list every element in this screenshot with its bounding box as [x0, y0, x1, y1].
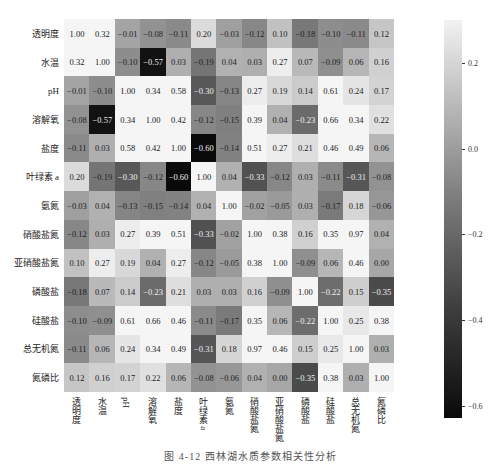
heatmap-cell: −0.23 [140, 277, 166, 306]
heatmap-cell: 0.66 [140, 306, 166, 335]
heatmap-cell: −0.22 [318, 277, 344, 306]
heatmap-cell: −0.17 [318, 191, 344, 220]
heatmap-cell: 0.27 [166, 249, 192, 278]
colorbar-tick: −0.4 [462, 315, 483, 325]
heatmap-cell: 0.04 [191, 191, 217, 220]
heatmap-cell: −0.30 [191, 76, 217, 105]
heatmap-cell: −0.01 [64, 76, 90, 105]
x-axis-label: 总无机氮 [350, 397, 363, 433]
heatmap-cell: 0.03 [242, 48, 268, 77]
heatmap-cell: 0.46 [267, 335, 293, 364]
heatmap-cell: −0.18 [64, 277, 90, 306]
heatmap-cell: −0.11 [166, 19, 192, 48]
heatmap-cell: 0.19 [267, 76, 293, 105]
heatmap-cell: −0.12 [64, 220, 90, 249]
heatmap-cell: 0.04 [140, 249, 166, 278]
heatmap-cell: 1.00 [140, 105, 166, 134]
heatmap-cell: −0.08 [64, 105, 90, 134]
heatmap-cell: 0.12 [369, 19, 395, 48]
heatmap-cell: −0.09 [89, 306, 115, 335]
heatmap-cell: 0.46 [166, 306, 192, 335]
heatmap-cell: −0.09 [318, 48, 344, 77]
heatmap-cell: −0.15 [216, 105, 242, 134]
correlation-heatmap: 1.000.32−0.01−0.08−0.110.20−0.03−0.120.1… [64, 19, 394, 392]
heatmap-cell: 0.27 [267, 48, 293, 77]
heatmap-cell: 0.32 [64, 48, 90, 77]
heatmap-cell: −0.02 [216, 220, 242, 249]
heatmap-cell: 0.16 [242, 277, 268, 306]
x-axis-label: 溶解氧 [147, 397, 160, 424]
y-axis-label: 磷酸盐 [32, 277, 59, 306]
x-axis-label: 亚硝酸盐氮 [274, 397, 287, 442]
heatmap-cell: −0.12 [242, 19, 268, 48]
colorbar-tick: 0.0 [462, 144, 478, 154]
heatmap-cell: −0.31 [191, 335, 217, 364]
heatmap-cell: 1.00 [242, 220, 268, 249]
heatmap-cell: 0.97 [343, 220, 369, 249]
heatmap-cell: 0.51 [166, 220, 192, 249]
x-axis-label: 硅酸盐 [325, 397, 338, 424]
heatmap-cell: 0.39 [242, 105, 268, 134]
heatmap-cell: 0.21 [292, 134, 318, 163]
heatmap-cell: −0.09 [292, 249, 318, 278]
heatmap-cell: −0.19 [191, 48, 217, 77]
heatmap-cell: 0.06 [343, 48, 369, 77]
heatmap-cell: 0.34 [140, 76, 166, 105]
y-axis-label: 透明度 [32, 19, 59, 48]
heatmap-cell: −0.57 [89, 105, 115, 134]
heatmap-cell: 0.17 [369, 76, 395, 105]
heatmap-cell: 0.04 [216, 162, 242, 191]
y-axis-label: 硝酸盐氮 [23, 220, 59, 249]
x-axis-label: pH [121, 397, 131, 408]
heatmap-cell: 0.32 [89, 19, 115, 48]
heatmap-cell: 1.00 [267, 249, 293, 278]
heatmap-cell: 0.42 [166, 105, 192, 134]
heatmap-cell: 1.00 [191, 162, 217, 191]
y-axis-label: 叶绿素 a [26, 162, 59, 191]
heatmap-cell: −0.08 [140, 19, 166, 48]
heatmap-cell: 0.42 [140, 134, 166, 163]
heatmap-cell: 0.25 [343, 306, 369, 335]
colorbar-tick: −0.6 [462, 401, 483, 411]
heatmap-cell: 1.00 [216, 191, 242, 220]
heatmap-cell: 0.10 [64, 249, 90, 278]
colorbar-tick: 0.2 [462, 58, 478, 68]
x-axis-label: 水温 [96, 397, 109, 415]
heatmap-cell: 0.27 [242, 76, 268, 105]
x-axis-label: 磷酸盐 [299, 397, 312, 424]
heatmap-cell: −0.14 [216, 134, 242, 163]
heatmap-cell: 0.38 [267, 220, 293, 249]
heatmap-cell: 0.03 [292, 191, 318, 220]
heatmap-cell: 0.51 [242, 134, 268, 163]
y-axis-label: 硅酸盐 [32, 306, 59, 335]
heatmap-cell: 1.00 [64, 19, 90, 48]
heatmap-cell: 0.21 [166, 277, 192, 306]
heatmap-cell: −0.11 [64, 134, 90, 163]
y-axis-label: 氮磷比 [32, 363, 59, 392]
heatmap-cell: 0.34 [343, 105, 369, 134]
heatmap-cell: 0.20 [64, 162, 90, 191]
heatmap-cell: −0.08 [369, 162, 395, 191]
heatmap-cell: 0.58 [166, 76, 192, 105]
heatmap-cell: 0.39 [140, 220, 166, 249]
heatmap-cell: −0.60 [191, 134, 217, 163]
heatmap-cell: 0.14 [115, 277, 141, 306]
heatmap-cell: 0.17 [115, 363, 141, 392]
heatmap-cell: −0.33 [191, 220, 217, 249]
heatmap-cell: 0.15 [343, 277, 369, 306]
y-axis-label: 总无机氮 [23, 335, 59, 364]
heatmap-cell: −0.12 [191, 249, 217, 278]
heatmap-cell: −0.11 [318, 162, 344, 191]
heatmap-cell: −0.06 [369, 191, 395, 220]
heatmap-cell: −0.17 [216, 306, 242, 335]
heatmap-cell: −0.57 [140, 48, 166, 77]
heatmap-cell: 0.22 [369, 105, 395, 134]
heatmap-cell: −0.05 [216, 249, 242, 278]
heatmap-cell: 0.24 [115, 335, 141, 364]
colorbar-tick: −0.2 [462, 229, 483, 239]
heatmap-cell: 0.49 [343, 134, 369, 163]
heatmap-cell: 0.24 [343, 76, 369, 105]
heatmap-cell: 0.46 [343, 249, 369, 278]
heatmap-cell: 0.16 [89, 363, 115, 392]
heatmap-cell: 0.04 [242, 363, 268, 392]
